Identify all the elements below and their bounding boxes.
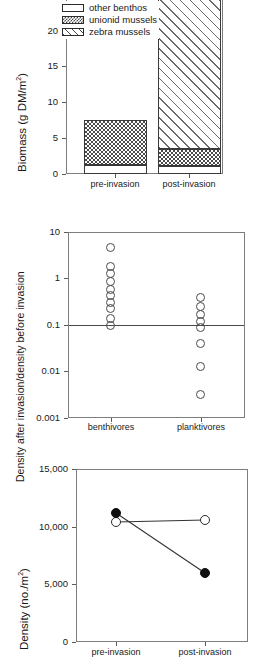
ratio-reference-line-1: [69, 325, 244, 326]
scatter-point-planktivores: [196, 323, 205, 332]
biomass-y-tick-15: [62, 66, 66, 67]
density-y-tick-5000: [72, 584, 76, 585]
density-marker-filled-pre-invasion: [111, 508, 121, 518]
bar-segment-unionid-mussels-post: [158, 149, 221, 166]
ratio-y-ticklabel-0.1: 0.1: [24, 320, 60, 330]
scatter-point-planktivores: [196, 390, 205, 399]
density-y-ticklabel-15000: 15,000: [24, 464, 68, 474]
density-y-ticklabel-10000: 10,000: [24, 522, 68, 532]
biomass-y-axis-label-exponent: 2: [15, 77, 22, 81]
density-y-tick-0: [72, 642, 76, 643]
ratio-y-ticklabel-0.001: 0.001: [20, 413, 60, 423]
scatter-point-planktivores: [196, 339, 205, 348]
ratio-y-tick-0.1: [64, 325, 68, 326]
density-panel: Density (no./m2) 0 5,000 10,000 15,000 p…: [0, 430, 254, 670]
ratio-panel: Density after invasion/density before in…: [0, 190, 254, 430]
density-x-tick-pre: [116, 642, 117, 646]
biomass-y-tick-5: [62, 138, 66, 139]
legend-item-zebra-mussels: zebra mussels: [62, 26, 157, 37]
biomass-y-ticklabel-5: 5: [30, 133, 58, 143]
legend-swatch-zebra-mussels-icon: [62, 28, 84, 36]
scatter-point-benthivores: [106, 321, 115, 330]
biomass-y-tick-10: [62, 102, 66, 103]
scatter-point-planktivores: [196, 362, 205, 371]
ratio-y-tick-0.01: [64, 371, 68, 372]
legend-swatch-unionid-mussels-icon: [62, 16, 84, 24]
scatter-point-benthivores: [106, 243, 115, 252]
bar-segment-other-benthos-post: [158, 166, 221, 174]
biomass-y-axis-label-tail: ): [16, 73, 28, 77]
biomass-y-axis-label: Biomass (g DM/m2): [16, 73, 28, 172]
line-open-series: [116, 520, 205, 522]
biomass-y-ticklabel-10: 10: [30, 97, 58, 107]
density-y-ticklabel-0: 0: [26, 637, 68, 647]
density-y-tick-10000: [72, 527, 76, 528]
biomass-x-ticklabel-pre-invasion: pre-invasion: [75, 180, 155, 189]
density-x-tick-post: [205, 642, 206, 646]
scatter-point-benthivores: [106, 304, 115, 313]
bar-segment-zebra-mussels-post: [158, 0, 221, 149]
biomass-y-ticklabel-15: 15: [30, 61, 58, 71]
biomass-legend: other benthos unionid mussels zebra muss…: [60, 1, 159, 39]
biomass-panel: Biomass (g DM/m2) other benthos unionid …: [0, 0, 254, 190]
ratio-y-ticklabel-0.01: 0.01: [24, 366, 60, 376]
density-y-ticklabel-5000: 5,000: [26, 579, 68, 589]
legend-item-unionid-mussels: unionid mussels: [62, 14, 157, 25]
biomass-x-ticklabel-post-invasion: post-invasion: [149, 180, 229, 189]
biomass-y-ticklabel-0: 0: [30, 169, 58, 179]
density-y-tick-15000: [72, 469, 76, 470]
ratio-y-tick-1: [64, 278, 68, 279]
density-marker-open-post-invasion: [200, 515, 210, 525]
legend-swatch-other-benthos-icon: [62, 4, 84, 12]
density-x-ticklabel-pre-invasion: pre-invasion: [76, 648, 156, 657]
ratio-y-tick-0.001: [64, 418, 68, 419]
ratio-y-ticklabel-10: 10: [24, 227, 60, 237]
biomass-y-tick-0: [62, 174, 66, 175]
bar-pre-invasion: [84, 120, 147, 174]
biomass-x-tick-pre: [115, 174, 116, 178]
biomass-x-tick-post: [189, 174, 190, 178]
legend-label-other-benthos: other benthos: [89, 3, 147, 13]
legend-label-unionid-mussels: unionid mussels: [89, 15, 157, 25]
ratio-y-tick-10: [64, 232, 68, 233]
figure-root: Biomass (g DM/m2) other benthos unionid …: [0, 0, 254, 670]
density-x-ticklabel-post-invasion: post-invasion: [165, 648, 245, 657]
scatter-point-planktivores: [196, 293, 205, 302]
density-marker-filled-post-invasion: [200, 568, 210, 578]
bar-segment-other-benthos-pre: [84, 165, 147, 174]
legend-label-zebra-mussels: zebra mussels: [89, 27, 150, 37]
legend-item-other-benthos: other benthos: [62, 2, 157, 13]
bar-segment-unionid-mussels-pre: [84, 120, 147, 165]
density-marker-open-pre-invasion: [111, 517, 121, 527]
biomass-y-axis-label-text: Biomass (g DM/m: [16, 81, 28, 172]
ratio-y-ticklabel-1: 1: [24, 273, 60, 283]
bar-post-invasion: [158, 0, 221, 174]
biomass-y-ticklabel-20: 20: [30, 26, 58, 36]
